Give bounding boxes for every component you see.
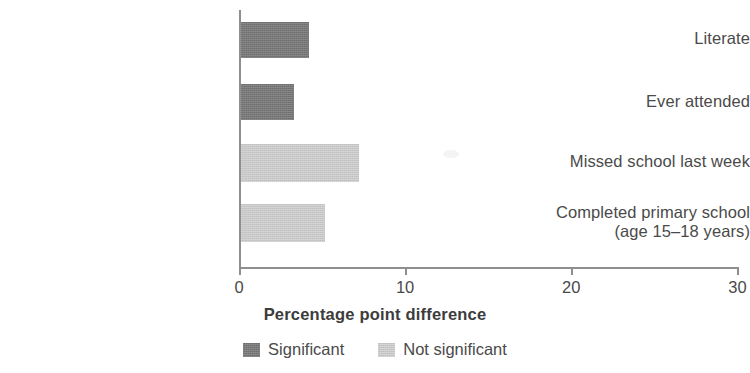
x-axis-tick-label-30: 30 [728, 278, 746, 297]
bar-chart: Literate Ever attended Missed school las… [0, 0, 750, 373]
bar-literate [241, 22, 309, 58]
chart-legend: Significant Not significant [0, 340, 750, 359]
bar-ever-attended [241, 84, 294, 120]
x-axis-tick-30 [737, 267, 739, 275]
legend-label-not-significant: Not significant [403, 340, 507, 359]
x-axis-tick-label-20: 20 [562, 278, 580, 297]
legend-item-not-significant: Not significant [378, 340, 507, 359]
legend-label-significant: Significant [268, 340, 344, 359]
scan-artifact [443, 150, 459, 158]
plot-area: 0 10 20 30 [239, 10, 739, 267]
x-axis-tick-20 [571, 267, 573, 275]
x-axis-title: Percentage point difference [0, 305, 750, 324]
x-axis-tick-label-0: 0 [234, 278, 243, 297]
bar-completed-primary-school [241, 204, 326, 242]
legend-swatch-not-significant [378, 343, 395, 357]
x-axis-line [239, 267, 739, 269]
legend-swatch-significant [243, 343, 260, 357]
legend-item-significant: Significant [243, 340, 344, 359]
x-axis-tick-0 [239, 267, 241, 275]
bar-missed-school-last-week [241, 144, 359, 182]
x-axis-tick-label-10: 10 [396, 278, 414, 297]
x-axis-tick-10 [405, 267, 407, 275]
